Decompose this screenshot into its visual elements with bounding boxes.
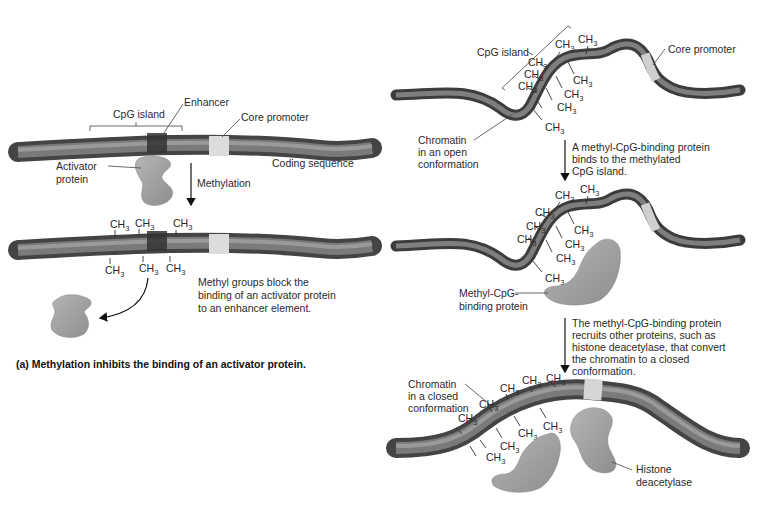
svg-text:CH3: CH3: [580, 183, 599, 198]
svg-text:CH3: CH3: [517, 233, 536, 248]
enhancer-label: Enhancer: [184, 96, 229, 108]
svg-text:CH3: CH3: [556, 252, 575, 267]
svg-text:CH3: CH3: [166, 262, 185, 277]
step2-text-line1: The methyl-CpG-binding protein: [572, 317, 722, 329]
svg-text:CH3: CH3: [574, 224, 593, 239]
svg-text:CH3: CH3: [557, 101, 576, 116]
enhancer-region: [147, 133, 167, 153]
step1-text-line2: binds to the methylated: [572, 153, 681, 165]
svg-text:CH3: CH3: [518, 427, 537, 442]
svg-text:CH3: CH3: [543, 420, 562, 435]
histone-deacetylase-protein: [571, 408, 616, 473]
svg-text:CH3: CH3: [555, 38, 574, 53]
step2-text-line3: histone deacetylase, that convert: [572, 341, 726, 353]
svg-text:CH3: CH3: [573, 74, 592, 89]
core-promoter-region-closed: [583, 378, 602, 400]
core-promoter-label: Core promoter: [241, 111, 309, 123]
svg-text:CH3: CH3: [565, 238, 584, 253]
panel-a: CpG island Enhancer Core promoter Coding…: [16, 96, 372, 370]
methyl-groups-bottom: CH3 CH3 CH3: [105, 256, 185, 279]
svg-text:CH3: CH3: [110, 218, 129, 233]
svg-text:CH3: CH3: [545, 121, 564, 136]
svg-text:CH3: CH3: [135, 217, 154, 232]
svg-text:CH3: CH3: [545, 272, 564, 287]
core-promoter-region: [209, 136, 229, 156]
core-promoter-region: [645, 54, 656, 80]
cpg-island-label: CpG island: [477, 46, 529, 58]
svg-text:CH3: CH3: [486, 451, 505, 466]
svg-text:CH3: CH3: [139, 262, 158, 277]
displacement-arrow: [100, 278, 148, 318]
activator-protein-shape: [135, 156, 172, 205]
hdac-label-line2: deacetylase: [636, 476, 692, 488]
core-promoter-region-methylated: [209, 234, 229, 254]
displaced-activator-protein: [51, 295, 91, 338]
dna-strand-methylated: [18, 231, 372, 254]
hdac-label-line1: Histone: [636, 463, 672, 475]
methyl-groups-stage1: CH3 CH3 CH3 CH3 CH3 CH3 CH3 CH3 CH3: [518, 33, 597, 136]
panel-b: CpG island Core promoter Chromatin in an…: [396, 26, 740, 492]
methyl-note-line1: Methyl groups block the: [198, 276, 309, 288]
coding-sequence-label: Coding sequence: [272, 157, 354, 169]
dna-strand-unmethylated: [18, 133, 372, 156]
step2-text-line4: the chromatin to a closed: [572, 353, 689, 365]
chromatin-closed-line3: conformation: [408, 402, 469, 414]
step2-text-line5: conformation.: [572, 365, 636, 377]
activator-label-line1: Activator: [56, 160, 97, 172]
methyl-note-line3: to an enhancer element.: [198, 302, 311, 314]
step1-text-line3: CpG island.: [572, 165, 627, 177]
diagram-canvas: CpG island Enhancer Core promoter Coding…: [0, 0, 759, 510]
enhancer-region-methylated: [147, 231, 167, 251]
mbp-label-line1: Methyl-CpG-: [459, 287, 519, 299]
svg-text:CH3: CH3: [555, 189, 574, 204]
svg-text:CH3: CH3: [173, 217, 192, 232]
chromatin-closed-line1: Chromatin: [408, 378, 457, 390]
mbp-label-line2: binding protein: [459, 300, 528, 312]
chromatin-open-line1: Chromatin: [418, 134, 467, 146]
chromatin-open-line3: conformation: [418, 158, 479, 170]
panel-a-caption: (a) Methylation inhibits the binding of …: [16, 358, 306, 370]
svg-text:CH3: CH3: [105, 264, 124, 279]
step2-text-line2: recruits other proteins, such as: [572, 329, 716, 341]
cpg-island-label: CpG island: [113, 108, 165, 120]
svg-text:CH3: CH3: [500, 440, 519, 455]
svg-text:CH3: CH3: [518, 80, 537, 95]
methyl-note-line2: binding of an activator protein: [198, 289, 336, 301]
svg-text:CH3: CH3: [578, 33, 597, 48]
step1-text-line1: A methyl-CpG-binding protein: [572, 141, 710, 153]
activator-label-line2: protein: [56, 173, 88, 185]
chromatin-closed-line2: in a closed: [408, 390, 458, 402]
core-promoter-label: Core promoter: [668, 43, 736, 55]
methylation-label: Methylation: [197, 177, 251, 189]
chromatin-open-line2: in an open: [418, 146, 467, 158]
